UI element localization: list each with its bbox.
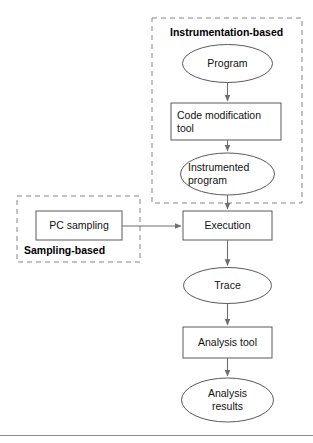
node-label-execution: Execution <box>183 219 272 232</box>
figure-canvas: Instrumentation-based Sampling-based Pro… <box>0 0 313 443</box>
node-label-code-modification-tool: Code modification tool <box>177 109 279 134</box>
node-label-program: Program <box>182 57 273 70</box>
node-label-pc-sampling: PC sampling <box>36 219 122 232</box>
node-label-instrumented-program: Instrumented program <box>188 161 278 186</box>
node-label-analysis-tool: Analysis tool <box>183 336 272 349</box>
node-label-trace: Trace <box>183 279 272 292</box>
group-label-instrumentation-based: Instrumentation-based <box>170 26 283 38</box>
group-label-sampling-based: Sampling-based <box>24 244 105 256</box>
node-label-analysis-results: Analysis results <box>182 387 273 412</box>
